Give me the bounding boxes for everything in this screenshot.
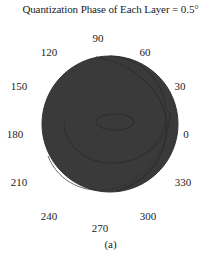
tick-label-150: 150 xyxy=(4,80,34,92)
tick-label-300: 300 xyxy=(133,210,163,222)
page-title: Quantization Phase of Each Layer = 0.5° xyxy=(0,2,221,16)
tick-label-180: 180 xyxy=(0,128,30,140)
tick-label-90: 90 xyxy=(86,32,110,44)
tick-label-0: 0 xyxy=(176,128,196,140)
figure-caption: (a) xyxy=(0,238,221,251)
tick-label-210: 210 xyxy=(4,176,34,188)
figure-panel: Quantization Phase of Each Layer = 0.5° … xyxy=(0,0,221,272)
tick-label-60: 60 xyxy=(133,46,157,58)
tick-label-30: 30 xyxy=(168,80,192,92)
radiation-pattern-fill xyxy=(42,56,178,192)
tick-label-270: 270 xyxy=(85,222,115,234)
polar-plot: 0 30 60 90 120 150 180 210 240 270 300 3… xyxy=(0,16,221,221)
tick-label-240: 240 xyxy=(34,210,64,222)
tick-label-120: 120 xyxy=(34,46,64,58)
tick-label-330: 330 xyxy=(168,176,198,188)
